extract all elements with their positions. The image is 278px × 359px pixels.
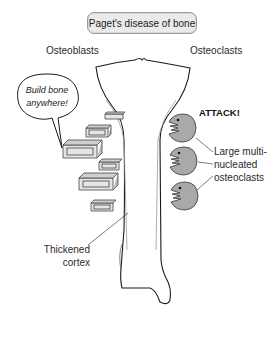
osteoclast-icon bbox=[170, 147, 197, 175]
thickened-cortex-line-2: cortex bbox=[40, 256, 90, 269]
speech-bubble-text: Build bone anywhere! bbox=[18, 84, 76, 110]
pagets-disease-diagram: Paget's disease of bone Osteoblasts Oste… bbox=[0, 0, 278, 359]
thickened-cortex-line-1: Thickened bbox=[40, 243, 90, 256]
osteoblast-block-icon bbox=[79, 173, 118, 190]
speech-line-2: anywhere! bbox=[18, 97, 76, 110]
osteoblast-blocks bbox=[63, 112, 125, 211]
osteoblast-block-icon bbox=[86, 125, 111, 137]
title-text: Paget's disease of bone bbox=[89, 18, 195, 29]
large-osteoclasts-line-1: Large multi- bbox=[214, 145, 267, 158]
large-osteoclasts-line-3: osteoclasts bbox=[214, 171, 267, 184]
osteoclasts-label: Osteoclasts bbox=[190, 45, 242, 57]
speech-line-1: Build bone bbox=[18, 84, 76, 97]
large-osteoclasts-line-2: nucleated bbox=[214, 158, 267, 171]
osteoblasts-label: Osteoblasts bbox=[46, 45, 99, 57]
osteoblast-block-icon bbox=[99, 159, 122, 170]
attack-label: ATTACK! bbox=[199, 107, 240, 119]
osteoclast-icon bbox=[171, 182, 198, 210]
large-osteoclasts-label: Large multi- nucleated osteoclasts bbox=[214, 145, 267, 184]
thickened-cortex-label: Thickened cortex bbox=[40, 243, 90, 269]
osteoblast-block-icon bbox=[91, 200, 116, 211]
osteoblast-block-icon bbox=[105, 112, 125, 119]
osteoclasts-group bbox=[169, 114, 213, 210]
osteoblast-block-icon bbox=[63, 140, 102, 158]
diagram-title: Paget's disease of bone bbox=[87, 12, 197, 34]
osteoclast-icon bbox=[169, 114, 196, 142]
